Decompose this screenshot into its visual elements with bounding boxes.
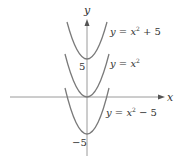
- y-axis-label: y: [83, 4, 91, 17]
- parabola-chart: y x 5 −5 y = x2 + 5 y = x2 y = x2 − 5: [0, 0, 182, 163]
- tick-label-neg5: −5: [72, 137, 87, 148]
- label-x2-minus-5: y = x2 − 5: [105, 106, 157, 118]
- label-x2: y = x2: [109, 57, 140, 69]
- x-axis-arrow-icon: [158, 95, 165, 100]
- x-axis-label: x: [167, 91, 174, 104]
- label-x2-plus-5: y = x2 + 5: [109, 25, 161, 37]
- y-axis-arrow-icon: [85, 19, 90, 26]
- tick-label-5: 5: [79, 61, 85, 72]
